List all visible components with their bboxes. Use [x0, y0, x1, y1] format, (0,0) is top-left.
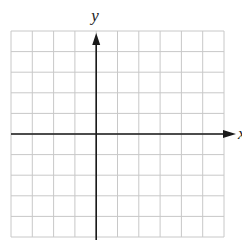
x-axis-arrow-icon [223, 130, 236, 138]
y-axis-label: y [89, 6, 99, 25]
x-axis-label: x [237, 124, 242, 143]
y-axis-arrow-icon [92, 33, 100, 45]
coordinate-plane: x y [0, 0, 242, 240]
